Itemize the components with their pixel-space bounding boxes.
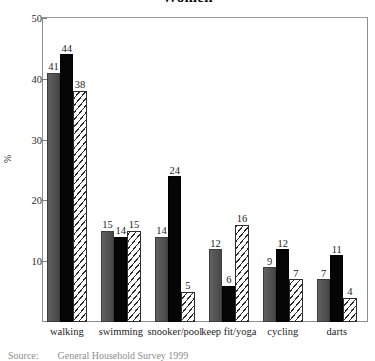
bar[interactable]: 9 — [263, 267, 276, 322]
x-axis-label: swimming — [99, 326, 143, 337]
bar-value-label: 44 — [62, 44, 73, 55]
bar-value-label: 6 — [226, 275, 231, 286]
y-tick-mark — [42, 261, 47, 262]
bar-value-label: 7 — [321, 269, 326, 280]
bar-value-label: 12 — [278, 239, 289, 250]
bar[interactable]: 38 — [73, 91, 86, 322]
x-axis-label: darts — [327, 326, 347, 337]
bar-group: 414438 — [43, 18, 97, 322]
bar-value-label: 38 — [75, 80, 86, 91]
bar-group: 14245 — [151, 18, 205, 322]
bar-value-label: 14 — [116, 226, 127, 237]
y-tick-mark — [42, 18, 47, 19]
source-prefix: Source: — [8, 350, 39, 361]
bar[interactable]: 12 — [209, 249, 222, 322]
bar-value-label: 41 — [48, 62, 59, 73]
bar-group: 9127 — [259, 18, 313, 322]
y-tick-label: 10 — [16, 256, 42, 267]
bar-value-label: 12 — [210, 239, 221, 250]
bar-group: 151415 — [97, 18, 151, 322]
bar-value-label: 15 — [129, 220, 140, 231]
bar-value-label: 9 — [267, 257, 272, 268]
x-axis-label: walking — [50, 326, 84, 337]
bar[interactable]: 5 — [181, 292, 194, 322]
y-tick-mark — [42, 79, 47, 80]
bar-value-label: 4 — [347, 287, 352, 298]
bar[interactable]: 6 — [222, 286, 235, 322]
bar[interactable]: 15 — [127, 231, 140, 322]
x-axis-labels: walkingswimmingsnooker/poolkeep fit/yoga… — [42, 326, 368, 342]
bar-value-label: 14 — [156, 226, 167, 237]
y-tick-label: 30 — [16, 134, 42, 145]
page-title: Women — [0, 0, 375, 6]
source-text: General Household Survey 1999 — [58, 350, 189, 361]
bar[interactable]: 7 — [289, 279, 302, 322]
bar[interactable]: 12 — [276, 249, 289, 322]
bar[interactable]: 44 — [60, 54, 73, 322]
bar-value-label: 11 — [332, 245, 342, 256]
x-axis-label: snooker/pool — [147, 326, 202, 337]
bar-group: 12616 — [205, 18, 259, 322]
bar[interactable]: 14 — [114, 237, 127, 322]
y-axis-ticks: 1020304050 — [0, 0, 42, 360]
bar[interactable]: 14 — [155, 237, 168, 322]
bar[interactable]: 11 — [330, 255, 343, 322]
bar[interactable]: 41 — [47, 73, 60, 322]
y-tick-label: 20 — [16, 195, 42, 206]
bars-layer: 414438151415142451261691277114 — [43, 18, 367, 322]
bar[interactable]: 4 — [343, 298, 356, 322]
y-tick-mark — [42, 200, 47, 201]
x-axis-label: cycling — [267, 326, 298, 337]
bar-group: 7114 — [313, 18, 367, 322]
x-axis-label: keep fit/yoga — [201, 326, 256, 337]
bar-value-label: 7 — [293, 269, 298, 280]
bar[interactable]: 7 — [317, 279, 330, 322]
bar[interactable]: 15 — [101, 231, 114, 322]
bar-value-label: 16 — [237, 214, 248, 225]
bar[interactable]: 24 — [168, 176, 181, 322]
y-tick-label: 50 — [16, 13, 42, 24]
bar-value-label: 24 — [170, 166, 181, 177]
bar-value-label: 5 — [185, 281, 190, 292]
source-note: Source: General Household Survey 1999 — [8, 350, 188, 361]
y-tick-mark — [42, 140, 47, 141]
bar[interactable]: 16 — [235, 225, 248, 322]
bar-value-label: 15 — [102, 220, 113, 231]
y-tick-label: 40 — [16, 73, 42, 84]
